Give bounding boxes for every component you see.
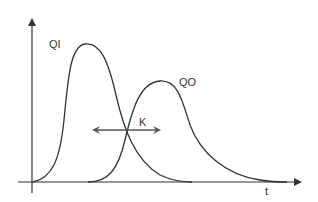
outflow-label: QO (179, 76, 197, 88)
hydrograph-diagram: QI QO K t (0, 0, 318, 202)
time-axis-label: t (265, 185, 268, 197)
inflow-curve (33, 44, 192, 182)
outflow-curve (88, 81, 287, 182)
inflow-label: QI (49, 38, 61, 50)
lag-label: K (139, 116, 147, 128)
